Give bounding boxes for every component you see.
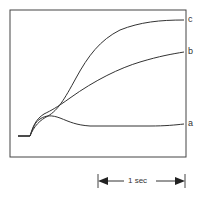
scale-bar-left-arrow-icon <box>98 177 108 185</box>
curve-label-a: a <box>188 119 193 128</box>
chart-canvas <box>0 0 203 199</box>
curve-label-c: c <box>188 15 193 24</box>
curve-b <box>18 52 184 136</box>
scale-bar-label: 1 sec <box>128 177 147 185</box>
plot-frame <box>10 10 186 157</box>
curve-label-b: b <box>188 47 193 56</box>
scale-bar-right-arrow-icon <box>175 177 185 185</box>
